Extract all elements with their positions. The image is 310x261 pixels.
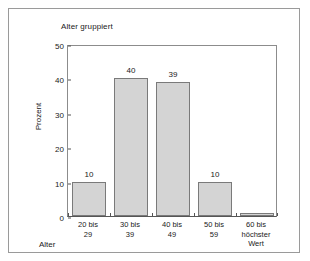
bar-rect[interactable] — [240, 213, 274, 216]
x-tick-label-line: 30 bis — [109, 220, 151, 230]
bar-rect[interactable] — [114, 78, 148, 216]
x-tick-mark — [152, 213, 153, 216]
x-tick-label-line: 49 — [151, 230, 193, 240]
bar-item[interactable]: 10 — [198, 46, 232, 216]
x-tick-label: 40 bis49 — [151, 220, 193, 239]
x-tick-mark — [236, 213, 237, 216]
bar-value-label: 40 — [114, 66, 148, 75]
bar-value-label: 10 — [198, 170, 232, 179]
x-tick-label-line: 20 bis — [67, 220, 109, 230]
x-axis-tick-labels: 20 bis2930 bis3940 bis4950 bis5960 bishö… — [67, 220, 277, 254]
x-tick-label: 20 bis29 — [67, 220, 109, 239]
bar-rect[interactable] — [72, 182, 106, 216]
x-axis-title: Alter — [39, 240, 55, 249]
x-tick-label: 60 bishöchsterWert — [235, 220, 277, 249]
x-tick-mark — [277, 213, 278, 216]
y-tick-label: 40 — [55, 76, 68, 85]
x-tick-label-line: 59 — [193, 230, 235, 240]
x-tick-label: 50 bis59 — [193, 220, 235, 239]
y-tick-label: 50 — [55, 42, 68, 51]
bar-rect[interactable] — [198, 182, 232, 216]
bar-value-label: 10 — [72, 170, 106, 179]
x-tick-label-line: 29 — [67, 230, 109, 240]
x-tick-label-line: höchster — [235, 230, 277, 240]
x-tick-label-line: 50 bis — [193, 220, 235, 230]
y-tick-label: 20 — [55, 145, 68, 154]
bar-item[interactable] — [240, 46, 274, 216]
bar-series: 10403910 — [68, 46, 276, 216]
figure-frame: Alter gruppiert Prozent 01020304050 1040… — [8, 8, 300, 253]
bar-item[interactable]: 39 — [156, 46, 190, 216]
plot-area: 01020304050 10403910 — [67, 45, 277, 217]
y-tick-label: 10 — [55, 179, 68, 188]
x-tick-mark — [194, 213, 195, 216]
y-tick-mark — [68, 218, 71, 219]
x-tick-label-line: 40 bis — [151, 220, 193, 230]
y-axis-title: Prozent — [34, 87, 43, 147]
y-tick-label: 30 — [55, 110, 68, 119]
x-tick-mark — [110, 213, 111, 216]
bar-value-label: 39 — [156, 70, 190, 79]
chart-title: Alter gruppiert — [61, 22, 113, 31]
x-tick-mark — [68, 213, 69, 216]
bar-rect[interactable] — [156, 82, 190, 216]
bar-item[interactable]: 40 — [114, 46, 148, 216]
bar-item[interactable]: 10 — [72, 46, 106, 216]
x-tick-label-line: Wert — [235, 239, 277, 249]
x-tick-label-line: 60 bis — [235, 220, 277, 230]
x-tick-label: 30 bis39 — [109, 220, 151, 239]
x-tick-label-line: 39 — [109, 230, 151, 240]
